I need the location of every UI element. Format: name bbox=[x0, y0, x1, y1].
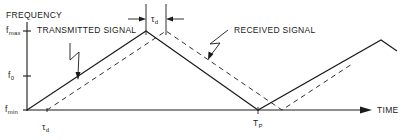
transmitted-callout-arrow-icon bbox=[76, 72, 81, 80]
label-td-axis: τd bbox=[42, 122, 49, 133]
label-td-delay: τd bbox=[151, 14, 158, 25]
label-fmin: fmin bbox=[5, 104, 18, 115]
received-signal-line bbox=[47, 31, 352, 110]
label-tp: TP bbox=[253, 118, 263, 129]
label-f0: f0 bbox=[8, 70, 15, 81]
x-axis-arrow-icon bbox=[360, 107, 372, 114]
transmitted-callout-leader bbox=[70, 43, 79, 76]
x-axis-label: TIME bbox=[377, 105, 399, 115]
fmcw-diagram: FREQUENCY TIME fmax f0 fmin τd TP τd TRA… bbox=[0, 0, 405, 140]
received-signal-label: RECEIVED SIGNAL bbox=[234, 25, 316, 35]
transmitted-signal-label: TRANSMITTED SIGNAL bbox=[37, 25, 136, 35]
delay-arrow-left-icon bbox=[139, 17, 146, 22]
label-fmax: fmax bbox=[6, 25, 21, 36]
delay-arrow-right-icon bbox=[166, 17, 173, 22]
received-callout-leader bbox=[210, 30, 228, 55]
y-axis-label: FREQUENCY bbox=[6, 10, 62, 20]
